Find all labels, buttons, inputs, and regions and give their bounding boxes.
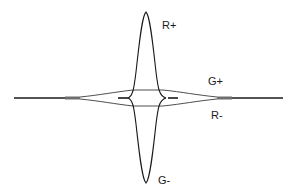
right-wedge-lower [163, 99, 217, 106]
label-g-minus: G- [158, 175, 170, 186]
label-r-plus: R+ [162, 20, 176, 31]
left-wedge-lower [80, 99, 133, 106]
gray-segment-right [217, 97, 232, 100]
upper-peak-curve [128, 12, 166, 98]
diagram-canvas [0, 0, 293, 194]
left-wedge-upper [80, 90, 133, 97]
right-wedge-upper [163, 90, 217, 97]
lower-peak-curve [128, 98, 166, 183]
label-r-minus: R- [211, 110, 223, 121]
gray-segment-left [65, 97, 80, 100]
label-g-plus: G+ [208, 76, 223, 87]
